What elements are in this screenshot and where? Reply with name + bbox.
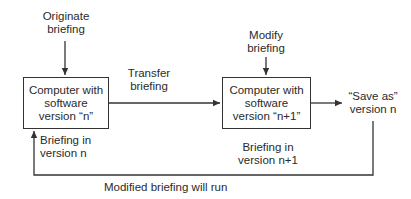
label-line: briefing: [242, 42, 290, 55]
box-line: version “n”: [39, 110, 93, 123]
originate-briefing-label: Originate briefing: [38, 10, 94, 36]
label-line: version n: [40, 147, 96, 160]
label-line: Transfer: [124, 67, 174, 80]
label-line: briefing: [124, 80, 174, 93]
label-line: Modify: [242, 29, 290, 42]
computer-version-n1-box: Computer with software version “n+1”: [222, 77, 311, 129]
label-line: Briefing in: [237, 141, 299, 154]
transfer-briefing-label: Transfer briefing: [124, 67, 174, 93]
box-line: software: [44, 97, 87, 110]
label-line: version n+1: [237, 154, 299, 167]
box-line: Computer with: [29, 84, 103, 97]
briefing-in-version-n-label: Briefing in version n: [40, 134, 96, 160]
briefing-in-version-n1-label: Briefing in version n+1: [237, 141, 299, 167]
label-line: briefing: [38, 23, 94, 36]
label-line: Briefing in: [40, 134, 96, 147]
label-line: Originate: [38, 10, 94, 23]
modify-briefing-label: Modify briefing: [242, 29, 290, 55]
box-line: software: [245, 97, 288, 110]
label-line: version n: [346, 103, 400, 116]
computer-version-n-box: Computer with software version “n”: [23, 77, 109, 129]
save-as-version-n-label: “Save as” version n: [346, 90, 400, 116]
modified-briefing-will-run-label: Modified briefing will run: [104, 181, 227, 194]
label-line: “Save as”: [346, 90, 400, 103]
label-line: Modified briefing will run: [104, 181, 227, 194]
box-line: Computer with: [229, 84, 303, 97]
box-line: version “n+1”: [233, 110, 300, 123]
